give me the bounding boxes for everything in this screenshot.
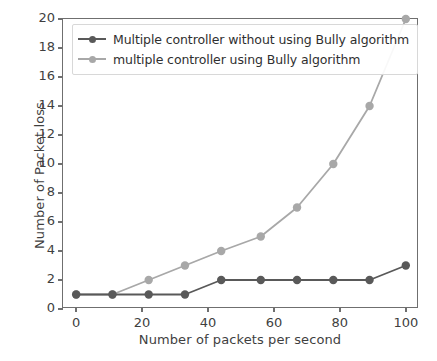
data-point — [402, 15, 410, 23]
data-point — [72, 290, 80, 298]
x-axis-title: Number of packets per second — [62, 332, 418, 347]
x-tick-label: 100 — [393, 315, 418, 330]
data-point — [365, 102, 373, 110]
y-tick-label: 0 — [47, 300, 55, 315]
legend-item-label: multiple controller using Bully algorith… — [113, 52, 360, 67]
x-tick-label: 80 — [332, 315, 349, 330]
y-tick-label: 20 — [38, 10, 55, 25]
data-point — [217, 276, 225, 284]
y-tick-label: 10 — [38, 155, 55, 170]
data-point — [257, 276, 265, 284]
y-tick-label: 8 — [47, 184, 55, 199]
data-point — [108, 290, 116, 298]
data-point — [329, 160, 337, 168]
y-tick-label: 14 — [38, 97, 55, 112]
legend-item[interactable]: multiple controller using Bully algorith… — [78, 49, 409, 69]
x-tick-label: 40 — [200, 315, 217, 330]
y-tick-label: 18 — [38, 39, 55, 54]
x-tick-label: 60 — [266, 315, 283, 330]
y-tick-label: 4 — [47, 242, 55, 257]
legend-marker-icon — [78, 32, 106, 46]
data-point — [293, 203, 301, 211]
data-point — [217, 247, 225, 255]
chart-legend: Multiple controller without using Bully … — [72, 24, 418, 75]
plot-area: 02468101214161820 020406080100 Multiple … — [62, 18, 418, 308]
data-point — [145, 276, 153, 284]
data-point — [257, 232, 265, 240]
data-point — [329, 276, 337, 284]
legend-item-label: Multiple controller without using Bully … — [113, 32, 409, 47]
y-tick-label: 2 — [47, 271, 55, 286]
y-axis-title: Number of Packet loss — [32, 51, 47, 301]
y-tick-label: 6 — [47, 213, 55, 228]
data-point — [293, 276, 301, 284]
data-point — [181, 290, 189, 298]
legend-marker-icon — [78, 52, 106, 66]
data-point — [181, 261, 189, 269]
x-tick-label: 0 — [72, 315, 80, 330]
x-tick-label: 20 — [134, 315, 151, 330]
legend-item[interactable]: Multiple controller without using Bully … — [78, 29, 409, 49]
chart-figure: Number of Packet loss 02468101214161820 … — [0, 0, 437, 361]
y-tick-label: 16 — [38, 68, 55, 83]
y-tick-label: 12 — [38, 126, 55, 141]
data-point — [145, 290, 153, 298]
data-point — [402, 261, 410, 269]
data-point — [365, 276, 373, 284]
